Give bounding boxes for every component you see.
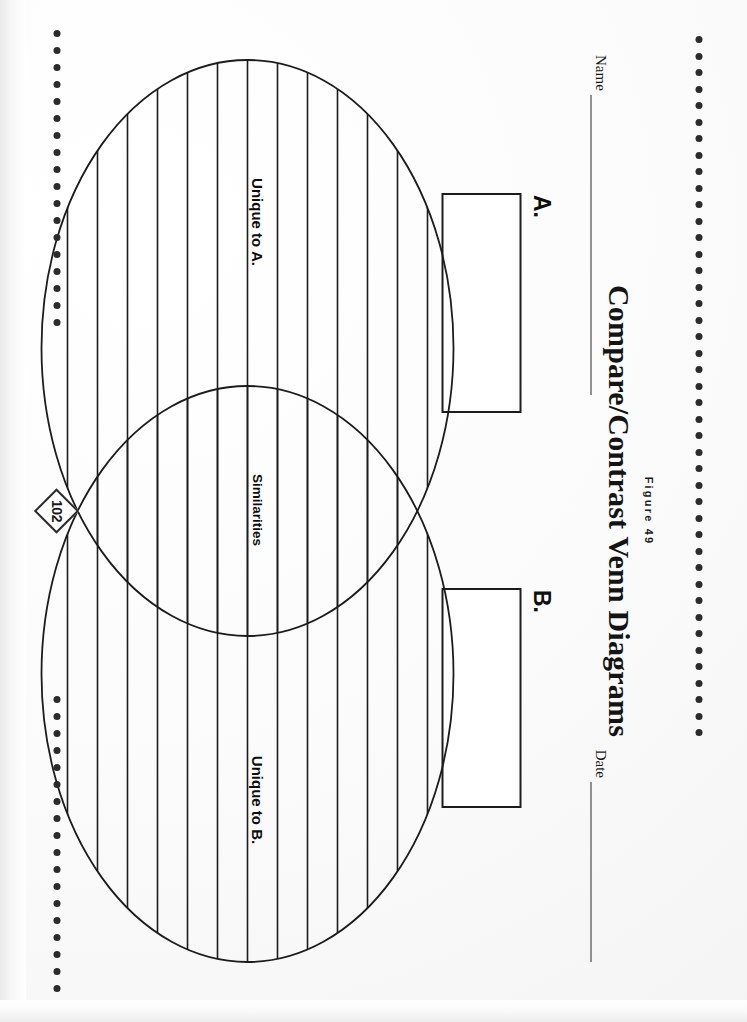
rule-dot: [695, 696, 702, 703]
rule-dot: [53, 64, 60, 71]
rule-dot: [695, 465, 702, 472]
rule-dot: [695, 416, 702, 423]
rule-dot: [53, 285, 60, 292]
rule-dot: [695, 515, 702, 522]
date-field-label: Date: [590, 750, 607, 778]
rule-dot: [695, 317, 702, 324]
answer-group-b: B.: [441, 588, 554, 808]
page-number-badge: 102: [36, 491, 76, 531]
bottom-dotted-rule-right: [53, 696, 60, 992]
rule-dot: [695, 135, 702, 142]
rule-dot: [695, 614, 702, 621]
rule-dot: [695, 119, 702, 126]
worksheet-sheet: Figure 49 Compare/Contrast Venn Diagrams…: [0, 0, 747, 1022]
rule-dot: [695, 713, 702, 720]
rule-dot: [53, 985, 60, 992]
rule-dot: [53, 730, 60, 737]
date-field[interactable]: Date: [590, 750, 607, 962]
rule-dot: [53, 951, 60, 958]
rule-dot: [695, 267, 702, 274]
rule-dot: [53, 764, 60, 771]
scanned-page: Figure 49 Compare/Contrast Venn Diagrams…: [0, 0, 747, 1022]
rule-dot: [695, 350, 702, 357]
venn-label-unique-b: Unique to B.: [249, 756, 266, 844]
rule-dot: [53, 917, 60, 924]
rule-dot: [695, 366, 702, 373]
rule-dot: [53, 81, 60, 88]
rule-dot: [695, 647, 702, 654]
rule-dot: [695, 498, 702, 505]
answer-letter-b: B.: [527, 590, 554, 613]
rule-dot: [695, 581, 702, 588]
page-number: 102: [48, 500, 64, 522]
rule-dot: [695, 564, 702, 571]
rule-dot: [695, 53, 702, 60]
rule-dot: [695, 185, 702, 192]
rule-dot: [53, 696, 60, 703]
rule-dot: [695, 284, 702, 291]
rule-dot: [695, 69, 702, 76]
rule-dot: [53, 968, 60, 975]
rule-dot: [695, 218, 702, 225]
bottom-rule: 102: [36, 0, 76, 1022]
rule-dot: [695, 482, 702, 489]
rule-dot: [53, 251, 60, 258]
figure-label: Figure 49: [642, 0, 654, 1022]
rule-dot: [53, 798, 60, 805]
venn-diagram: Unique to A. Similarities Unique to B.: [39, 58, 455, 964]
bottom-dotted-rule-left: [53, 30, 60, 326]
rule-dot: [695, 152, 702, 159]
rule-dot: [695, 663, 702, 670]
answer-group-a: A.: [441, 193, 554, 413]
name-field[interactable]: Name: [590, 55, 607, 395]
rule-dot: [53, 883, 60, 890]
rule-dot: [53, 815, 60, 822]
rule-dot: [53, 183, 60, 190]
rule-dot: [53, 149, 60, 156]
rule-dot: [695, 432, 702, 439]
rule-dot: [53, 234, 60, 241]
rule-dot: [695, 168, 702, 175]
rule-dot: [695, 36, 702, 43]
rule-dot: [53, 30, 60, 37]
rule-dot: [695, 102, 702, 109]
rule-dot: [53, 866, 60, 873]
rule-dot: [53, 98, 60, 105]
rule-dot: [695, 548, 702, 555]
rule-dot: [695, 383, 702, 390]
answer-letter-a: A.: [527, 195, 554, 218]
rule-dot: [695, 201, 702, 208]
rule-dot: [53, 849, 60, 856]
rule-dot: [695, 630, 702, 637]
venn-label-similarities: Similarities: [250, 474, 265, 546]
rule-dot: [695, 234, 702, 241]
name-field-line[interactable]: [590, 95, 605, 395]
rule-dot: [53, 200, 60, 207]
rule-dot: [695, 251, 702, 258]
rule-dot: [53, 217, 60, 224]
rule-dot: [53, 302, 60, 309]
rule-dot: [53, 319, 60, 326]
rule-dot: [695, 399, 702, 406]
rule-dot: [695, 597, 702, 604]
rule-dot: [53, 132, 60, 139]
rule-dot: [53, 900, 60, 907]
rule-dot: [53, 781, 60, 788]
rule-dot: [53, 166, 60, 173]
rule-dot: [695, 680, 702, 687]
rule-dot: [695, 449, 702, 456]
date-field-line[interactable]: [590, 782, 605, 962]
rule-dot: [695, 86, 702, 93]
rule-dot: [53, 713, 60, 720]
rule-dot: [53, 47, 60, 54]
rule-dot: [695, 333, 702, 340]
rule-dot: [53, 747, 60, 754]
rule-dot: [53, 268, 60, 275]
venn-svg: [39, 58, 455, 964]
rule-dot: [695, 300, 702, 307]
rule-dot: [695, 531, 702, 538]
name-field-label: Name: [590, 55, 607, 91]
venn-label-unique-a: Unique to A.: [249, 178, 266, 266]
rule-dot: [53, 832, 60, 839]
top-dotted-rule: [695, 36, 702, 736]
